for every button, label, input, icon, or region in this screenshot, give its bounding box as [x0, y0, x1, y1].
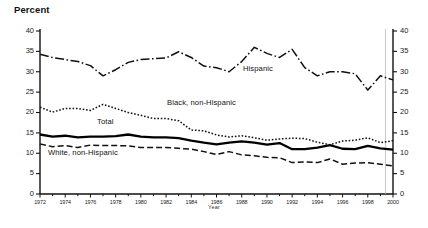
- series-label-hispanic: Hispanic: [243, 64, 273, 73]
- series-label-white-non-hispanic: White, non-Hispanic: [48, 148, 118, 157]
- y-tick-label-right: 25: [400, 88, 422, 96]
- series-line-hispanic: [40, 47, 393, 90]
- chart-axes: [36, 29, 397, 198]
- y-tick-label-left: 40: [12, 27, 34, 35]
- y-tick-label-left: 30: [12, 68, 34, 76]
- series-label-black-non-hispanic: Black, non-Hispanic: [167, 98, 236, 107]
- y-tick-label-right: 40: [400, 27, 422, 35]
- y-tick-label-left: 15: [12, 129, 34, 137]
- y-tick-label-left: 10: [12, 149, 34, 157]
- y-tick-label-left: 20: [12, 108, 34, 116]
- dropout-rate-line-chart: Percent 4035302520151050 403530252015105…: [0, 0, 428, 228]
- chart-plot-area: [0, 0, 428, 228]
- y-tick-label-right: 0: [400, 190, 422, 198]
- y-tick-label-right: 20: [400, 108, 422, 116]
- x-axis-title: Year: [0, 204, 428, 210]
- series-label-total: Total: [97, 117, 114, 126]
- y-tick-label-left: 25: [12, 88, 34, 96]
- y-tick-label-left: 5: [12, 169, 34, 177]
- y-tick-label-right: 5: [400, 169, 422, 177]
- series-line-black-non-hispanic: [40, 104, 393, 144]
- y-tick-label-left: 0: [12, 190, 34, 198]
- y-tick-label-right: 15: [400, 129, 422, 137]
- y-tick-label-right: 35: [400, 47, 422, 55]
- y-tick-label-left: 35: [12, 47, 34, 55]
- y-tick-label-right: 30: [400, 68, 422, 76]
- y-tick-label-right: 10: [400, 149, 422, 157]
